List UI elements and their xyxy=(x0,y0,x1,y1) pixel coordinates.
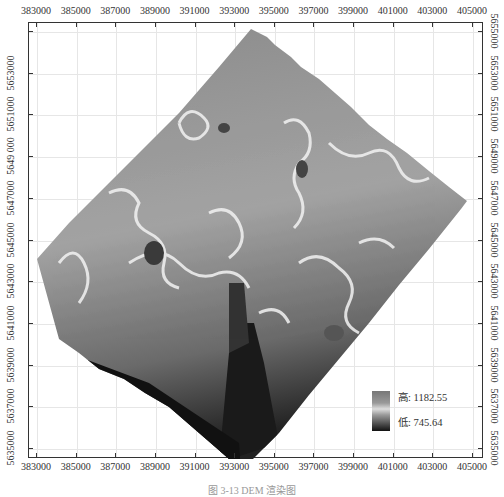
tick-mark xyxy=(472,22,473,27)
tick-mark xyxy=(76,453,77,458)
tick-mark xyxy=(478,240,483,241)
tick-mark xyxy=(76,22,77,27)
x-tick-label: 383000 xyxy=(21,461,51,472)
tick-mark xyxy=(478,281,483,282)
tick-mark xyxy=(478,406,483,407)
tick-mark xyxy=(155,22,156,27)
x-tick-label: 397000 xyxy=(298,5,328,16)
tick-mark xyxy=(155,453,156,458)
tick-mark xyxy=(274,453,275,458)
tick-mark xyxy=(28,73,33,74)
x-tick-label: 391000 xyxy=(180,5,210,16)
tick-mark xyxy=(28,31,33,32)
x-tick-label: 389000 xyxy=(140,461,170,472)
x-tick-label: 405000 xyxy=(457,5,487,16)
tick-mark xyxy=(28,448,33,449)
x-tick-label: 403000 xyxy=(417,461,447,472)
x-tick-label: 385000 xyxy=(61,461,91,472)
tick-mark xyxy=(28,240,33,241)
tick-mark xyxy=(478,156,483,157)
tick-mark xyxy=(393,22,394,27)
x-tick-label: 397000 xyxy=(298,461,328,472)
x-tick-label: 403000 xyxy=(417,5,447,16)
tick-mark xyxy=(353,22,354,27)
tick-mark xyxy=(28,281,33,282)
x-tick-label: 383000 xyxy=(21,5,51,16)
x-tick-label: 391000 xyxy=(180,461,210,472)
tick-mark xyxy=(393,453,394,458)
x-tick-label: 395000 xyxy=(259,5,289,16)
tick-mark xyxy=(478,114,483,115)
x-tick-label: 401000 xyxy=(378,5,408,16)
tick-mark xyxy=(115,22,116,27)
tick-mark xyxy=(472,453,473,458)
x-tick-label: 401000 xyxy=(378,461,408,472)
legend-high-label: 高: 1182.55 xyxy=(398,389,447,404)
map-frame: 高: 1182.55 低: 745.64 xyxy=(28,22,483,458)
tick-mark xyxy=(478,365,483,366)
tick-mark xyxy=(28,406,33,407)
legend-gradient-bar xyxy=(372,391,390,431)
tick-mark xyxy=(28,323,33,324)
tick-mark xyxy=(28,156,33,157)
tick-mark xyxy=(195,453,196,458)
tick-mark xyxy=(478,198,483,199)
x-tick-label: 405000 xyxy=(457,461,487,472)
tick-mark xyxy=(28,114,33,115)
figure-caption: 图 3-13 DEM 渲染图 xyxy=(0,482,504,497)
y-tick-label: 5635000 xyxy=(5,422,16,474)
tick-mark xyxy=(28,365,33,366)
tick-mark xyxy=(234,453,235,458)
x-tick-label: 393000 xyxy=(219,461,249,472)
tick-mark xyxy=(432,22,433,27)
tick-mark xyxy=(478,31,483,32)
tick-mark xyxy=(36,453,37,458)
legend-low-label: 低: 745.64 xyxy=(398,414,442,429)
tick-mark xyxy=(274,22,275,27)
x-tick-label: 387000 xyxy=(100,461,130,472)
tick-mark xyxy=(478,73,483,74)
tick-mark xyxy=(353,453,354,458)
tick-mark xyxy=(313,22,314,27)
tick-mark xyxy=(478,323,483,324)
x-tick-label: 387000 xyxy=(100,5,130,16)
x-tick-label: 399000 xyxy=(338,5,368,16)
x-tick-label: 399000 xyxy=(338,461,368,472)
y-tick-label: 5635000 xyxy=(489,422,500,474)
tick-mark xyxy=(432,453,433,458)
tick-mark xyxy=(234,22,235,27)
x-tick-label: 385000 xyxy=(61,5,91,16)
tick-mark xyxy=(115,453,116,458)
tick-mark xyxy=(195,22,196,27)
x-tick-label: 389000 xyxy=(140,5,170,16)
x-tick-label: 395000 xyxy=(259,461,289,472)
tick-mark xyxy=(28,198,33,199)
x-tick-label: 393000 xyxy=(219,5,249,16)
tick-mark xyxy=(478,448,483,449)
tick-mark xyxy=(313,453,314,458)
tick-mark xyxy=(36,22,37,27)
